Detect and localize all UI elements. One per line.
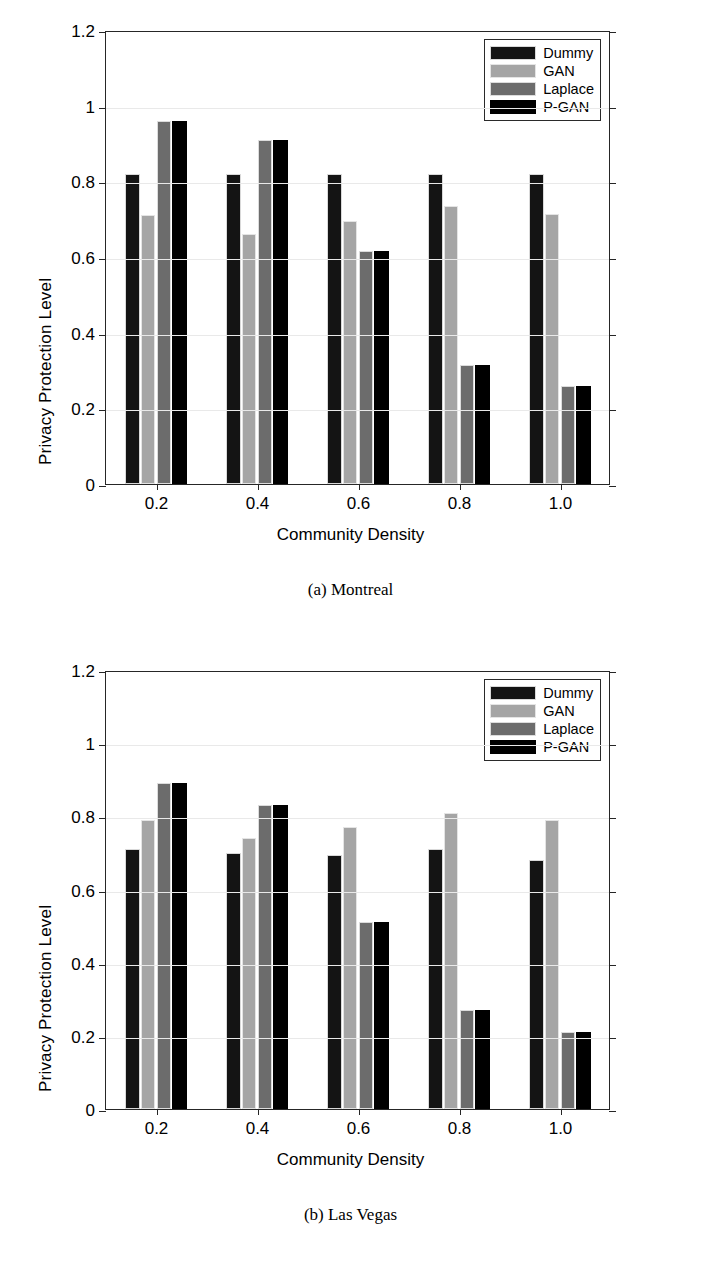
x-axis-tick-label: 0.4 <box>246 1119 270 1139</box>
y-axis-tick <box>99 818 106 819</box>
bar-p-gan-0.8 <box>475 1010 489 1109</box>
legend-swatch-icon <box>490 686 536 700</box>
y-axis-tick-label: 1.2 <box>71 22 95 42</box>
legend-item-laplace: Laplace <box>490 80 594 98</box>
x-axis-tick <box>561 484 562 490</box>
y-axis-tick <box>99 259 106 260</box>
x-axis-tick <box>157 484 158 490</box>
y-axis-tick-right <box>609 818 616 819</box>
y-axis-tick-right <box>609 745 616 746</box>
legend-label: GAN <box>543 704 574 718</box>
bar-dummy-1.0 <box>529 860 543 1109</box>
legend-swatch-icon <box>490 722 536 736</box>
y-axis-tick <box>99 183 106 184</box>
bar-p-gan-0.6 <box>374 251 388 484</box>
y-axis-tick-label: 0.2 <box>71 400 95 420</box>
x-axis-tick <box>460 484 461 490</box>
figure-las-vegas: Privacy Protection Level DummyGANLaplace… <box>0 620 701 1280</box>
y-axis-tick <box>99 486 106 487</box>
gridline <box>106 335 609 336</box>
bar-gan-0.8 <box>444 813 458 1109</box>
x-axis-tick <box>258 484 259 490</box>
y-axis-tick <box>99 335 106 336</box>
y-axis-tick-right <box>609 965 616 966</box>
y-axis-tick-right <box>609 1038 616 1039</box>
bar-dummy-0.2 <box>125 174 139 484</box>
bar-p-gan-1.0 <box>576 1032 590 1109</box>
y-axis-label-montreal: Privacy Protection Level <box>36 278 56 465</box>
bar-dummy-0.2 <box>125 849 139 1109</box>
bar-laplace-0.8 <box>460 1010 474 1109</box>
y-axis-tick-right <box>609 892 616 893</box>
bar-p-gan-0.6 <box>374 922 388 1109</box>
y-axis-tick <box>99 672 106 673</box>
x-axis-label-las-vegas: Community Density <box>0 1150 701 1170</box>
bar-p-gan-0.2 <box>172 783 186 1109</box>
legend-las-vegas: DummyGANLaplaceP-GAN <box>484 679 601 761</box>
y-axis-tick-label: 0.8 <box>71 173 95 193</box>
gridline <box>106 183 609 184</box>
legend-swatch-icon <box>490 704 536 718</box>
bar-gan-0.4 <box>242 838 256 1109</box>
caption-montreal: (a) Montreal <box>0 580 701 600</box>
axes-las-vegas: DummyGANLaplaceP-GAN 00.20.40.60.811.20.… <box>105 671 610 1110</box>
bar-gan-1.0 <box>545 214 559 485</box>
bar-dummy-0.8 <box>428 174 442 484</box>
gridline <box>106 259 609 260</box>
bar-laplace-0.4 <box>258 805 272 1109</box>
x-axis-tick <box>157 1109 158 1115</box>
gridline <box>106 892 609 893</box>
bar-gan-0.4 <box>242 234 256 484</box>
legend-item-gan: GAN <box>490 702 594 720</box>
legend-swatch-icon <box>490 64 536 78</box>
bar-p-gan-0.2 <box>172 121 186 484</box>
bar-gan-0.2 <box>141 215 155 484</box>
figure-montreal: Privacy Protection Level DummyGANLaplace… <box>0 0 701 620</box>
x-axis-tick <box>359 484 360 490</box>
gridline <box>106 108 609 109</box>
y-axis-tick <box>99 410 106 411</box>
y-axis-tick-label: 0 <box>86 476 95 496</box>
bar-p-gan-0.4 <box>273 140 287 484</box>
caption-las-vegas: (b) Las Vegas <box>0 1205 701 1225</box>
bar-gan-0.6 <box>343 221 357 484</box>
x-axis-tick-label: 0.6 <box>347 1119 371 1139</box>
legend-swatch-icon <box>490 82 536 96</box>
y-axis-tick <box>99 892 106 893</box>
y-axis-label-las-vegas: Privacy Protection Level <box>36 905 56 1092</box>
y-axis-tick <box>99 32 106 33</box>
x-axis-tick-label: 0.8 <box>448 1119 472 1139</box>
bar-gan-0.8 <box>444 206 458 484</box>
x-axis-tick-label: 0.4 <box>246 494 270 514</box>
y-axis-tick <box>99 1038 106 1039</box>
figure-page: Privacy Protection Level DummyGANLaplace… <box>0 0 701 1280</box>
legend-item-p-gan: P-GAN <box>490 738 594 756</box>
y-axis-tick-label: 0.4 <box>71 955 95 975</box>
gridline <box>106 745 609 746</box>
legend-item-dummy: Dummy <box>490 684 594 702</box>
y-axis-tick-label: 0.6 <box>71 249 95 269</box>
legend-label: Dummy <box>543 46 593 60</box>
y-axis-tick-right <box>609 672 616 673</box>
y-axis-tick-right <box>609 108 616 109</box>
legend-swatch-icon <box>490 46 536 60</box>
y-axis-tick <box>99 1111 106 1112</box>
bar-laplace-0.6 <box>359 922 373 1109</box>
legend-label: Dummy <box>543 686 593 700</box>
y-axis-tick-label: 0.4 <box>71 325 95 345</box>
x-axis-tick-label: 1.0 <box>549 1119 573 1139</box>
bar-laplace-0.2 <box>157 121 171 484</box>
x-axis-tick <box>359 1109 360 1115</box>
y-axis-tick-label: 1 <box>86 98 95 118</box>
bar-laplace-0.4 <box>258 140 272 484</box>
y-axis-tick-label: 0.8 <box>71 808 95 828</box>
gridline <box>106 965 609 966</box>
y-axis-tick-label: 1.2 <box>71 662 95 682</box>
y-axis-tick-right <box>609 335 616 336</box>
x-axis-tick-label: 0.2 <box>145 1119 169 1139</box>
bar-p-gan-0.8 <box>475 365 489 484</box>
x-axis-tick <box>460 1109 461 1115</box>
x-axis-tick-label: 0.2 <box>145 494 169 514</box>
bar-gan-0.6 <box>343 827 357 1109</box>
legend-item-dummy: Dummy <box>490 44 594 62</box>
